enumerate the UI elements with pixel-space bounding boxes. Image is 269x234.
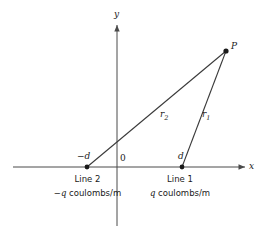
line1-charge-units: coulombs/m: [155, 188, 210, 198]
r2-subscript: 2: [164, 114, 168, 122]
line2-charge-dot: [85, 165, 90, 170]
y-axis-arrowhead: [114, 25, 119, 32]
r2-label: r2: [160, 110, 168, 121]
d-label: d: [178, 152, 184, 161]
electrostatics-two-line-charges-figure: y x 0 P −d d r2 r1 Line 2 −q coulombs/m …: [0, 0, 269, 234]
r1-subscript: 1: [206, 114, 210, 122]
line1-name: Line 1: [110, 175, 250, 184]
field-point-label: P: [231, 42, 237, 51]
line2-sign: −: [54, 188, 61, 198]
field-point-dot: [223, 48, 228, 53]
x-axis-arrowhead: [239, 164, 246, 169]
line1-charge-dot: [180, 165, 185, 170]
figure-canvas: [0, 0, 269, 234]
r1-label: r1: [202, 110, 210, 121]
origin-label: 0: [120, 154, 126, 163]
x-axis-label: x: [249, 162, 254, 171]
line1-charge-density: q coulombs/m: [110, 189, 250, 198]
line1-caption: Line 1 q coulombs/m: [110, 175, 250, 197]
neg-d-label: −d: [77, 152, 90, 161]
y-axis-label: y: [114, 10, 119, 19]
